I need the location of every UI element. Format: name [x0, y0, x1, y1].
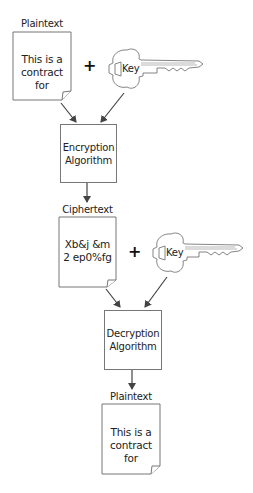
- decryption-algorithm-box: Decryption Algorithm: [104, 310, 162, 370]
- encryption-line-1: Encryption: [63, 141, 115, 154]
- ciphertext-label: Ciphertext: [58, 204, 117, 215]
- ciphertext-line-2: 2 ep0%fg: [59, 251, 116, 264]
- plaintext-output-line-2: contract for: [102, 439, 160, 465]
- encryption-algorithm-box: Encryption Algorithm: [60, 124, 117, 183]
- plus-operator: +: [128, 244, 141, 260]
- plaintext-input-line-1: This is a: [13, 53, 71, 66]
- ciphertext-line-1: Xb&j &m: [59, 238, 116, 251]
- arrow-plaintext-to-encryption: [61, 103, 76, 122]
- decryption-line-2: Algorithm: [107, 340, 160, 353]
- plaintext-input-label: Plaintext: [13, 18, 71, 29]
- arrow-ciphertext-to-decryption: [106, 289, 120, 307]
- key-label: Key: [166, 247, 184, 258]
- arrow-key-to-encryption: [101, 93, 124, 122]
- plaintext-output-label: Plaintext: [102, 391, 160, 402]
- plaintext-output-line-1: This is a: [102, 426, 160, 439]
- plaintext-input-line-2: contract for: [13, 66, 71, 92]
- plus-operator: +: [83, 58, 96, 74]
- key-label: Key: [122, 63, 140, 74]
- arrow-key-to-decryption: [145, 277, 167, 307]
- decryption-line-1: Decryption: [107, 327, 160, 340]
- encryption-line-2: Algorithm: [63, 154, 115, 167]
